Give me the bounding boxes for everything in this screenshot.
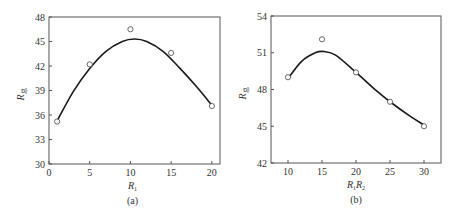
x-axis-label: R1 [127,180,137,192]
y-tick-label: 33 [35,134,45,145]
x-tick-label: 10 [125,167,135,178]
fit-curve [288,51,424,125]
y-tick-label: 45 [257,121,267,132]
data-point [87,62,92,67]
x-axis-label: R1R2 [346,179,365,191]
data-point [55,119,60,124]
x-tick-label: 10 [283,166,293,177]
plot-frame [271,16,441,163]
panel-caption: (b) [350,194,362,206]
y-tick-label: 42 [257,158,267,169]
figure: 3033363942454805101520R总R1(a) 4245485154… [0,0,452,218]
x-tick-label: 15 [317,166,327,177]
x-tick-label: 30 [419,166,429,177]
panel-caption: (a) [127,195,138,207]
data-point [387,99,392,104]
data-point [209,103,214,108]
y-tick-label: 54 [257,11,267,22]
x-tick-label: 15 [166,167,176,178]
chart-panel-b: 42454851541015202530R总R1R2(b) [237,11,441,207]
x-tick-label: 20 [351,166,361,177]
y-tick-label: 39 [35,85,45,96]
data-point [285,75,290,80]
y-tick-label: 30 [35,159,45,170]
x-tick-label: 20 [207,167,217,178]
data-point [128,27,133,32]
y-tick-label: 45 [35,36,45,47]
data-point [353,70,358,75]
y-tick-label: 42 [35,61,45,72]
data-point [319,37,324,42]
x-tick-label: 25 [385,166,395,177]
chart-panel-a: 3033363942454805101520R总R1(a) [15,12,220,208]
y-axis-label: R总 [15,88,27,101]
x-tick-label: 0 [47,167,52,178]
y-tick-label: 51 [257,47,267,58]
fit-curve [57,39,212,121]
y-tick-label: 48 [35,12,45,23]
y-tick-label: 36 [35,110,45,121]
x-tick-label: 5 [87,167,92,178]
y-tick-label: 48 [257,84,267,95]
data-point [169,50,174,55]
y-axis-label: R总 [237,87,249,100]
data-point [421,124,426,129]
